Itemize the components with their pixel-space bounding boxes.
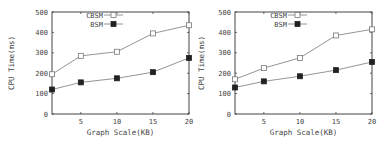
open-square-marker bbox=[370, 27, 375, 32]
y-tick-label: 300 bbox=[218, 49, 231, 57]
series-line-bsm bbox=[52, 58, 189, 90]
open-square-marker bbox=[150, 31, 155, 36]
legend-marker-cbsm bbox=[111, 13, 116, 18]
legend-label-cbsm: CBSM bbox=[86, 12, 103, 20]
y-tick-label: 400 bbox=[35, 29, 48, 37]
legend-label-bsm: BSM bbox=[274, 21, 287, 29]
chart-right-plot: 01002003004005005101520Graph Scale(KB)CP… bbox=[195, 0, 391, 147]
x-tick-label: 10 bbox=[113, 118, 121, 126]
legend-marker-cbsm bbox=[295, 13, 300, 18]
x-tick-label: 20 bbox=[368, 118, 376, 126]
filled-square-marker bbox=[370, 59, 375, 64]
y-tick-label: 200 bbox=[35, 70, 48, 78]
open-square-marker bbox=[333, 33, 338, 38]
plot-frame bbox=[52, 12, 189, 114]
y-tick-label: 100 bbox=[218, 90, 231, 98]
y-axis-label: CPU Time(ms) bbox=[7, 36, 16, 90]
plot-frame bbox=[235, 12, 372, 114]
x-tick-label: 15 bbox=[149, 118, 157, 126]
filled-square-marker bbox=[114, 76, 119, 81]
open-square-marker bbox=[50, 72, 55, 77]
filled-square-marker bbox=[233, 85, 238, 90]
filled-square-marker bbox=[297, 74, 302, 79]
y-tick-label: 100 bbox=[35, 90, 48, 98]
x-axis-label: Graph Scale(KB) bbox=[87, 128, 155, 137]
y-tick-label: 500 bbox=[218, 9, 231, 17]
open-square-marker bbox=[114, 49, 119, 54]
y-axis-label: CPU Time(ms) bbox=[197, 36, 206, 90]
filled-square-marker bbox=[50, 87, 55, 92]
open-square-marker bbox=[187, 23, 192, 28]
open-square-marker bbox=[233, 77, 238, 82]
y-tick-label: 0 bbox=[44, 111, 48, 119]
legend-label-cbsm: CBSM bbox=[270, 12, 287, 20]
x-tick-label: 5 bbox=[79, 118, 83, 126]
filled-square-marker bbox=[333, 68, 338, 73]
series-line-bsm bbox=[235, 62, 372, 88]
x-tick-label: 10 bbox=[296, 118, 304, 126]
legend-marker-bsm bbox=[111, 22, 116, 27]
filled-square-marker bbox=[78, 80, 83, 85]
x-tick-label: 15 bbox=[332, 118, 340, 126]
filled-square-marker bbox=[261, 79, 266, 84]
series-line-cbsm bbox=[235, 29, 372, 79]
filled-square-marker bbox=[150, 70, 155, 75]
y-tick-label: 500 bbox=[35, 9, 48, 17]
y-tick-label: 200 bbox=[218, 70, 231, 78]
legend-label-bsm: BSM bbox=[90, 21, 103, 29]
legend-marker-bsm bbox=[295, 22, 300, 27]
open-square-marker bbox=[261, 66, 266, 71]
series-line-cbsm bbox=[52, 25, 189, 74]
chart-right: 01002003004005005101520Graph Scale(KB)CP… bbox=[195, 0, 390, 147]
y-tick-label: 400 bbox=[218, 29, 231, 37]
chart-left: 01002003004005005101520Graph Scale(KB)CP… bbox=[0, 0, 195, 147]
chart-left-plot: 01002003004005005101520Graph Scale(KB)CP… bbox=[0, 0, 195, 147]
x-axis-label: Graph Scale(KB) bbox=[270, 128, 338, 137]
open-square-marker bbox=[297, 55, 302, 60]
open-square-marker bbox=[78, 53, 83, 58]
y-tick-label: 300 bbox=[35, 49, 48, 57]
x-tick-label: 20 bbox=[185, 118, 193, 126]
x-tick-label: 5 bbox=[262, 118, 266, 126]
y-tick-label: 0 bbox=[227, 111, 231, 119]
filled-square-marker bbox=[187, 55, 192, 60]
